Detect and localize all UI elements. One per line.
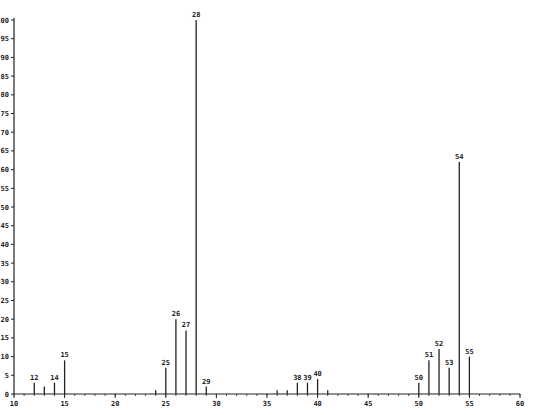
x-tick-label: 15 [60, 400, 68, 408]
peak-label-25: 25 [162, 359, 170, 367]
y-tick-label: 95 [1, 35, 9, 43]
peak-label-14: 14 [50, 374, 58, 382]
y-tick-label: 10 [1, 353, 9, 361]
y-tick-label: 15 [1, 334, 9, 342]
peak-label-39: 39 [303, 374, 311, 382]
x-tick-label: 20 [111, 400, 119, 408]
y-tick-label: 100 [0, 17, 9, 25]
peak-label-27: 27 [182, 321, 190, 329]
peak-label-51: 51 [425, 351, 433, 359]
x-tick-label: 55 [465, 400, 473, 408]
peak-label-52: 52 [435, 340, 443, 348]
x-tick-label: 25 [162, 400, 170, 408]
y-tick-label: 60 [1, 166, 9, 174]
y-tick-label: 75 [1, 110, 9, 118]
y-tick-label: 90 [1, 54, 9, 62]
x-tick-label: 30 [212, 400, 220, 408]
x-axis: 1015202530354045505560 [10, 394, 524, 408]
y-tick-label: 45 [1, 222, 9, 230]
y-tick-label: 20 [1, 316, 9, 324]
y-tick-label: 70 [1, 129, 9, 137]
y-tick-label: 80 [1, 91, 9, 99]
x-tick-label: 35 [263, 400, 271, 408]
y-tick-label: 0 [5, 391, 9, 399]
x-tick-label: 45 [364, 400, 372, 408]
peak-label-54: 54 [455, 153, 463, 161]
x-tick-label: 10 [10, 400, 18, 408]
peak-label-15: 15 [60, 351, 68, 359]
peak-series: 1214152526272829383940505152535455 [30, 11, 474, 394]
y-tick-label: 35 [1, 260, 9, 268]
y-tick-label: 85 [1, 73, 9, 81]
y-tick-label: 65 [1, 147, 9, 155]
y-tick-label: 5 [5, 372, 9, 380]
peak-label-29: 29 [202, 378, 210, 386]
peak-label-55: 55 [465, 348, 473, 356]
plot-area: 0510152025303540455055606570758085909510… [0, 0, 533, 415]
peak-label-53: 53 [445, 359, 453, 367]
peak-label-40: 40 [313, 370, 321, 378]
y-tick-label: 40 [1, 241, 9, 249]
peak-label-38: 38 [293, 374, 301, 382]
y-tick-label: 30 [1, 278, 9, 286]
x-tick-label: 50 [415, 400, 423, 408]
peak-label-26: 26 [172, 310, 180, 318]
y-tick-label: 55 [1, 185, 9, 193]
mass-spectrum-chart: 0510152025303540455055606570758085909510… [0, 0, 533, 415]
peak-label-50: 50 [415, 374, 423, 382]
peak-label-28: 28 [192, 11, 200, 19]
y-tick-label: 25 [1, 297, 9, 305]
y-tick-label: 50 [1, 204, 9, 212]
x-tick-label: 40 [313, 400, 321, 408]
y-axis: 0510152025303540455055606570758085909510… [0, 17, 14, 399]
peak-label-12: 12 [30, 374, 38, 382]
x-tick-label: 60 [516, 400, 524, 408]
